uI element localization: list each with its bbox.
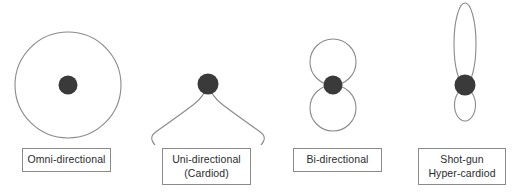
omni-directional-polar-shape: [0, 0, 140, 145]
label-line-1: Shot-gun: [421, 153, 503, 167]
microphone-capsule-dot: [59, 76, 78, 95]
label-line-1: Uni-directional: [165, 153, 248, 167]
label-box-omni-directional: Omni-directional: [22, 148, 111, 172]
shotgun-main-lobe: [454, 3, 476, 85]
label-line-1: Bi-directional: [296, 153, 379, 167]
label-line-2: (Cardiod): [165, 167, 248, 181]
microphone-capsule-dot: [198, 74, 219, 95]
microphone-capsule-dot: [324, 76, 343, 95]
bi-directional-figure-eight-shape: [285, 0, 395, 145]
label-line-1: Omni-directional: [25, 153, 108, 167]
label-line-2: Hyper-cardiod: [421, 167, 503, 181]
label-box-shotgun: Shot-gun Hyper-cardiod: [418, 148, 506, 185]
polar-pattern-diagram: Omni-directional Uni-directional (Cardio…: [0, 0, 527, 195]
microphone-capsule-dot: [455, 75, 476, 96]
label-box-uni-directional: Uni-directional (Cardiod): [162, 148, 251, 185]
label-box-bi-directional: Bi-directional: [293, 148, 382, 172]
uni-directional-cardioid-shape: [145, 0, 275, 145]
shotgun-hypercardioid-shape: [405, 0, 527, 145]
